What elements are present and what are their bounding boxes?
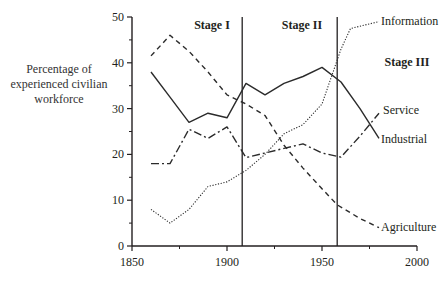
y-tick-label: 50 (112, 10, 124, 24)
series-line-industrial (151, 67, 379, 138)
y-tick-label: 0 (118, 239, 124, 253)
axes (127, 17, 417, 251)
series-lines (151, 22, 379, 228)
annotations: Stage I Stage II Stage III Information S… (194, 14, 438, 234)
y-axis-label-line-2: experienced civilian (0, 77, 118, 92)
y-axis-label-line-1: Percentage of (0, 62, 118, 77)
series-label-service: Service (383, 103, 419, 117)
stage-2-label: Stage II (282, 18, 323, 32)
series-line-service (151, 113, 379, 163)
workforce-chart: Percentage of experienced civilian workf… (0, 0, 447, 282)
y-axis-label: Percentage of experienced civilian workf… (0, 62, 118, 107)
series-label-industrial: Industrial (381, 132, 428, 146)
x-tick-label: 2000 (405, 255, 429, 269)
series-line-agriculture (151, 35, 379, 227)
stage-1-label: Stage I (194, 18, 230, 32)
series-label-agriculture: Agriculture (381, 220, 436, 234)
stage-3-label: Stage III (384, 55, 429, 69)
plot-area: 010203040501850190019502000 Stage I Stag… (0, 0, 447, 282)
y-axis-label-line-3: workforce (0, 92, 118, 107)
series-line-information (151, 22, 379, 224)
x-tick-label: 1950 (310, 255, 334, 269)
x-tick-label: 1850 (120, 255, 144, 269)
y-tick-label: 10 (112, 193, 124, 207)
y-tick-label: 20 (112, 147, 124, 161)
x-tick-label: 1900 (215, 255, 239, 269)
series-label-information: Information (381, 14, 438, 28)
